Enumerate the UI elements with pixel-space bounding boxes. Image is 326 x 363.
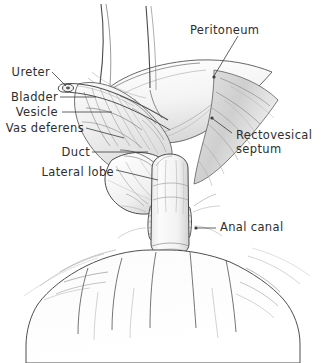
anatomical-figure: Peritoneum Ureter Bladder Vesicle Vas de… [0, 0, 326, 363]
label-lateral-lobe: Lateral lobe [0, 166, 114, 179]
label-ureter: Ureter [0, 66, 50, 79]
label-vas-deferens: Vas deferens [0, 122, 84, 135]
label-rectovesical-septum: Rectovesical septum [236, 128, 312, 156]
label-vesicle: Vesicle [0, 106, 58, 119]
leader-ureter [52, 72, 66, 86]
label-rectovesical-septum-line2: septum [236, 142, 312, 156]
label-peritoneum: Peritoneum [190, 24, 259, 37]
label-anal-canal: Anal canal [220, 221, 283, 234]
examining-finger [151, 154, 189, 256]
anatomy-drawing [0, 0, 326, 363]
hand-and-knuckles [24, 248, 310, 363]
label-duct: Duct [0, 146, 90, 159]
label-bladder: Bladder [0, 91, 58, 104]
label-rectovesical-septum-line1: Rectovesical [236, 128, 312, 142]
